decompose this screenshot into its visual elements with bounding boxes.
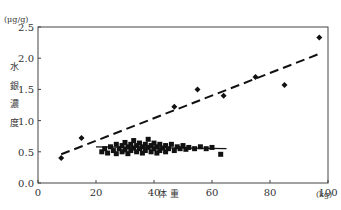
square-point [166, 146, 171, 151]
scatter-chart: 0.00.51.01.52.02.5 020406080100 (μg/g) 水… [0, 0, 341, 210]
square-point [123, 140, 128, 145]
x-tick-label: 80 [264, 187, 277, 198]
x-tick-label: 60 [206, 187, 219, 198]
plot-border [38, 27, 328, 183]
y-axis-title-char: 銀 [10, 80, 19, 91]
diamond-point [195, 86, 201, 92]
trendlines [61, 54, 319, 154]
square-point [218, 152, 223, 157]
square-point [131, 138, 136, 143]
x-tick-label: 20 [90, 187, 103, 198]
square-point [169, 142, 174, 147]
square-point [186, 145, 191, 150]
square-point [198, 144, 203, 149]
diamond-point [221, 93, 227, 99]
y-axis-title-char: 度 [10, 117, 19, 128]
diamond-point [58, 155, 64, 161]
y-axis-title-char: 濃 [10, 98, 19, 109]
square-point [114, 142, 119, 147]
y-tick-label: 2.0 [18, 53, 34, 64]
plot-frame [38, 27, 328, 183]
diamond-point [171, 104, 177, 110]
square-point [105, 151, 110, 156]
square-point [210, 145, 215, 150]
square-point [146, 137, 151, 142]
x-unit-label: (kg) [316, 190, 332, 199]
x-axis-title: 体 重 [158, 188, 179, 199]
data-points [58, 35, 322, 161]
square-point [204, 146, 209, 151]
square-point [114, 151, 119, 156]
y-tick-label: 0.5 [18, 147, 34, 158]
y-tick-label: 1.0 [18, 116, 34, 127]
y-unit-label: (μg/g) [4, 15, 28, 24]
x-tick-label: 0 [35, 187, 41, 198]
square-point [192, 146, 197, 151]
y-axis-title-char: 水 [10, 61, 19, 72]
diamond-point [282, 82, 288, 88]
diamond-point [79, 135, 85, 141]
diamond-point [316, 35, 322, 41]
dashed-trendline [61, 54, 319, 154]
diamond-point [253, 74, 259, 80]
y-tick-label: 1.5 [18, 84, 34, 95]
y-tick-label: 0.0 [18, 178, 34, 189]
square-point [102, 146, 107, 151]
